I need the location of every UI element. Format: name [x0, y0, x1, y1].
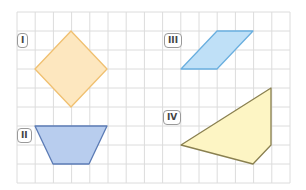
- shape-label-IV: IV: [163, 110, 181, 125]
- grid-diagram: [0, 0, 306, 190]
- shape-I: [35, 31, 107, 107]
- shape-label-III: III: [164, 33, 182, 48]
- shape-II: [35, 126, 107, 164]
- shape-label-I: I: [17, 33, 28, 48]
- shape-label-II: II: [17, 128, 32, 143]
